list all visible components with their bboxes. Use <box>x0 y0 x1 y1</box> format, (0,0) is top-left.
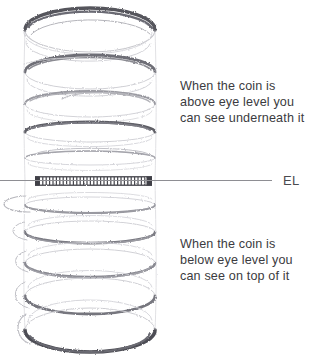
coin-below-3 <box>16 242 155 277</box>
caption-below-line-1: When the coin is <box>180 236 314 252</box>
coin-above-1 <box>24 8 155 61</box>
caption-above-eye-level: When the coin is above eye level you can… <box>180 78 314 127</box>
eye-level-label: EL <box>283 173 300 188</box>
coin-above-4 <box>25 122 155 147</box>
caption-above-line-2: above eye level you <box>180 94 314 110</box>
coins-above-eye-level <box>24 8 155 171</box>
coin-stack-drawing <box>0 0 314 357</box>
coins-below-eye-level <box>4 192 155 352</box>
caption-below-line-2: below eye level you <box>180 252 314 268</box>
coin-perspective-illustration: EL When the coin is above eye level you … <box>0 0 314 357</box>
caption-below-line-3: can see on top of it <box>180 268 314 284</box>
caption-above-line-3: can see underneath it <box>180 110 314 126</box>
coin-below-1 <box>4 192 155 213</box>
caption-below-eye-level: When the coin is below eye level you can… <box>180 236 314 285</box>
caption-above-line-1: When the coin is <box>180 78 314 94</box>
coin-at-eye-level <box>35 177 152 186</box>
eye-level-line <box>0 180 272 181</box>
coin-above-5 <box>25 148 155 170</box>
coin-below-2 <box>13 215 155 243</box>
